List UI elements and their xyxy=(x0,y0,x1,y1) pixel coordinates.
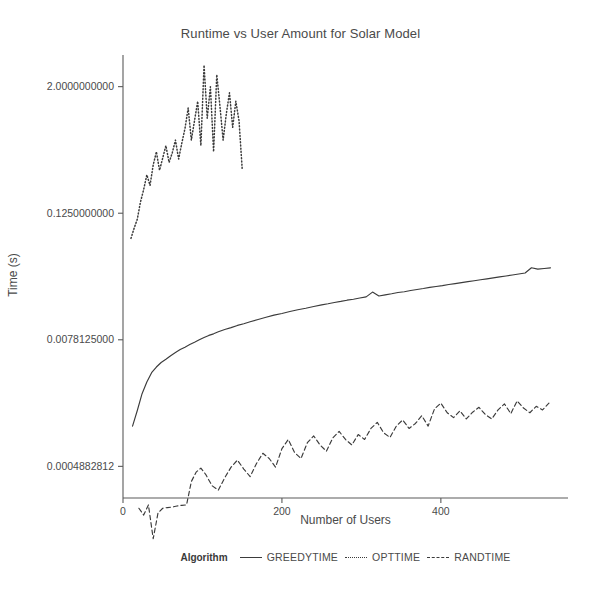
legend-line-dotted-icon xyxy=(345,552,367,562)
chart-legend: Algorithm GREEDYTIME OPTTIME RANDTIME xyxy=(123,551,568,563)
legend-entry-greedytime[interactable]: GREEDYTIME xyxy=(240,551,338,563)
chart-figure: Runtime vs User Amount for Solar Model T… xyxy=(0,0,601,589)
y-tick-label: 0.0078125000 xyxy=(47,333,114,345)
plot-area: 2.00000000000.12500000000.00781250000.00… xyxy=(0,0,601,589)
legend-entry-opttime[interactable]: OPTTIME xyxy=(345,551,420,563)
y-axis-ticks: 2.00000000000.12500000000.00781250000.00… xyxy=(47,80,123,472)
series-line-opttime xyxy=(131,65,242,238)
legend-label-greedytime: GREEDYTIME xyxy=(267,551,338,563)
y-tick-label: 0.0004882812 xyxy=(47,460,114,472)
x-axis-label: Number of Users xyxy=(123,513,568,527)
series-line-greedytime xyxy=(133,268,551,426)
y-tick-label: 0.1250000000 xyxy=(47,207,114,219)
y-tick-label: 2.0000000000 xyxy=(47,80,114,92)
legend-title: Algorithm xyxy=(180,552,227,563)
legend-label-randtime: RANDTIME xyxy=(454,551,510,563)
data-series-group xyxy=(131,65,551,539)
legend-line-dashed-icon xyxy=(427,552,449,562)
legend-label-opttime: OPTTIME xyxy=(372,551,420,563)
legend-entry-randtime[interactable]: RANDTIME xyxy=(427,551,510,563)
legend-line-solid-icon xyxy=(240,552,262,562)
